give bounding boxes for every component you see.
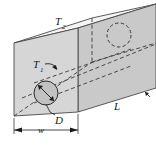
label-t2-subscript: 2 xyxy=(62,23,66,31)
label-length: L xyxy=(113,100,120,112)
duct-diagram-svg: T 2 T 1 D L w xyxy=(0,0,156,145)
width-arrowhead-right xyxy=(70,127,78,132)
label-t1-subscript: 1 xyxy=(40,66,44,74)
length-dimension-group xyxy=(145,92,150,97)
label-t1: T xyxy=(33,58,40,70)
label-t2: T xyxy=(55,15,62,27)
width-arrowhead-left xyxy=(14,127,22,132)
duct-figure: T 2 T 1 D L w xyxy=(0,0,156,145)
label-width: w xyxy=(38,125,44,135)
label-diameter: D xyxy=(54,114,63,126)
width-dimension-group xyxy=(14,114,78,134)
